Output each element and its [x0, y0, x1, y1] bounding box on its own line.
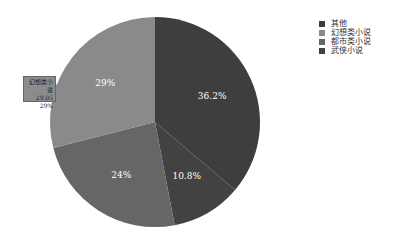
legend-item-urban[interactable]: 都市类小说: [319, 37, 371, 46]
tooltip-value: 29.05: [26, 94, 53, 102]
tooltip: 幻想类小说 29.05 29%: [23, 76, 56, 102]
legend-swatch: [319, 30, 325, 36]
legend-label: 都市类小说: [331, 37, 371, 46]
legend-item-wuxia[interactable]: 武侠小说: [319, 46, 371, 55]
legend-label: 其他: [331, 19, 347, 28]
slice-label: 10.8%: [172, 171, 201, 181]
tooltip-arrow: [56, 84, 60, 92]
slice-label: 36.2%: [198, 91, 227, 101]
slice-label: 24%: [111, 170, 131, 180]
tooltip-name: 幻想类小说: [26, 78, 53, 94]
legend-swatch: [319, 48, 325, 54]
legend-swatch: [319, 39, 325, 45]
legend-item-other[interactable]: 其他: [319, 19, 371, 28]
legend-label: 幻想类小说: [331, 28, 371, 37]
legend-label: 武侠小说: [331, 46, 363, 55]
tooltip-percent: 29%: [26, 102, 53, 110]
legend-swatch: [319, 21, 325, 27]
legend: 其他 幻想类小说 都市类小说 武侠小说: [319, 19, 371, 55]
slice-label: 29%: [95, 78, 115, 88]
legend-item-fantasy[interactable]: 幻想类小说: [319, 28, 371, 37]
